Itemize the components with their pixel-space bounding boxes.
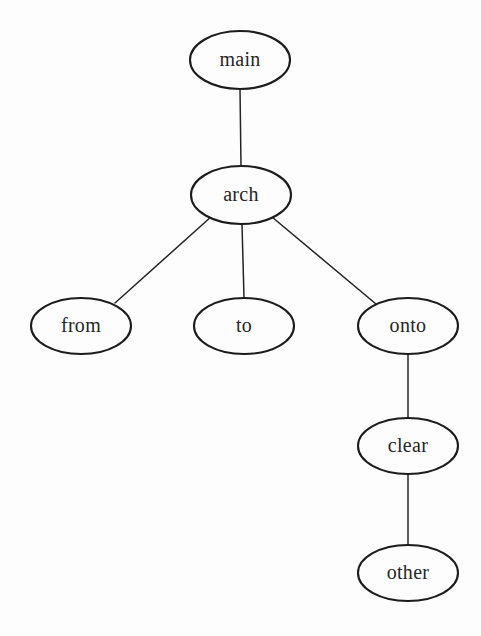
node-main[interactable]: main [190,31,290,89]
node-other[interactable]: other [358,545,458,601]
edge-arch-to [242,224,244,298]
node-other-label: other [387,561,430,583]
edge-arch-from [115,216,212,303]
node-layer: main arch from to onto clear [31,31,458,601]
node-to[interactable]: to [194,298,294,354]
node-main-label: main [219,48,260,70]
node-from[interactable]: from [31,298,131,354]
node-arch-label: arch [223,183,259,205]
graph-svg: main arch from to onto clear [0,0,481,636]
node-clear[interactable]: clear [358,418,458,474]
node-from-label: from [61,314,101,336]
diagram-canvas: main arch from to onto clear [0,0,481,636]
node-onto-label: onto [390,314,427,336]
node-to-label: to [236,314,252,336]
node-clear-label: clear [388,434,428,456]
edge-main-arch [240,89,241,166]
node-onto[interactable]: onto [358,298,458,354]
edge-arch-onto [272,217,376,304]
node-arch[interactable]: arch [191,166,291,224]
